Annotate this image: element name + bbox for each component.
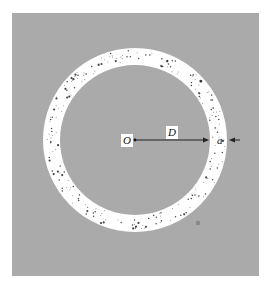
thickness-label: a	[215, 134, 225, 147]
diagram-canvas	[0, 0, 270, 287]
origin-label: O	[121, 134, 133, 147]
annulus-diagram: O D a	[0, 0, 270, 287]
scan-smudge-mark	[196, 221, 200, 225]
distance-label: D	[166, 126, 178, 139]
